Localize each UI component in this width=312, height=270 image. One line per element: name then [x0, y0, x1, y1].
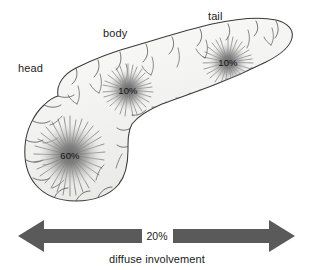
label-tail: tail: [208, 10, 222, 22]
arrow-caption: diffuse involvement: [109, 253, 205, 265]
label-head: head: [18, 62, 43, 74]
pancreas-diagram: 60%: [0, 0, 312, 270]
lesion-head-percent: 60%: [60, 150, 80, 161]
lesion-body-percent: 10%: [118, 85, 138, 96]
diagram-canvas: 60%: [0, 0, 312, 270]
lesion-tail-percent: 10%: [218, 57, 238, 68]
arrow-percent-label: 20%: [146, 230, 167, 242]
label-body: body: [103, 27, 128, 39]
